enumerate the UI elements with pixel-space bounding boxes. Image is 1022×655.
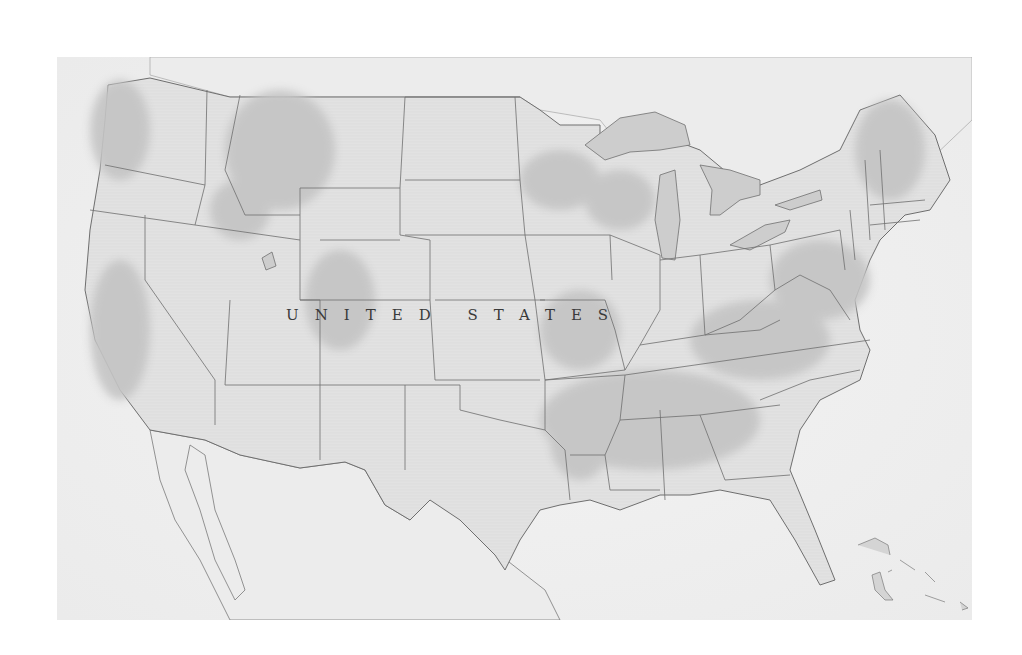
us-relief-map bbox=[57, 57, 972, 620]
country-label: UNITED STATES bbox=[286, 306, 624, 324]
map-frame: UNITED STATES bbox=[57, 57, 972, 620]
